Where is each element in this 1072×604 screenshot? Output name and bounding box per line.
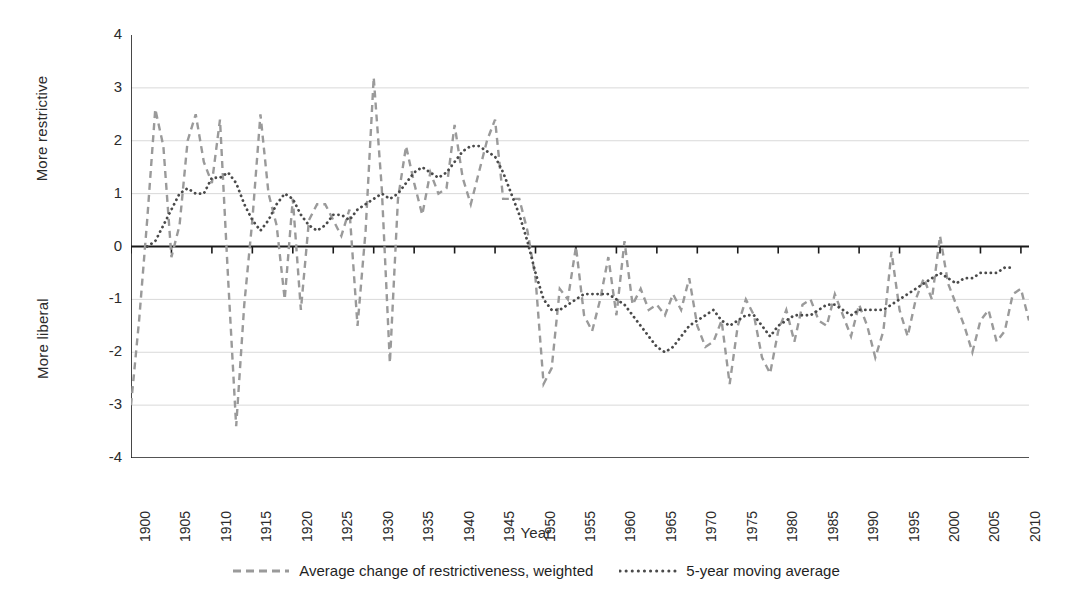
x-axis-label: Year <box>0 524 1072 541</box>
legend-dotted-swatch-icon <box>619 565 677 577</box>
legend-entry[interactable]: Average change of restrictiveness, weigh… <box>232 562 593 579</box>
legend-label: 5-year moving average <box>686 562 839 579</box>
chart-legend: Average change of restrictiveness, weigh… <box>0 562 1072 579</box>
legend-dashed-swatch-icon <box>232 565 290 577</box>
x-axis-tick-labels: 1900190519101915192019251930193519401945… <box>0 0 1072 604</box>
legend-label: Average change of restrictiveness, weigh… <box>299 562 593 579</box>
legend-entry[interactable]: 5-year moving average <box>619 562 839 579</box>
chart-figure: More restrictive More liberal 43210-1-2-… <box>0 0 1072 604</box>
